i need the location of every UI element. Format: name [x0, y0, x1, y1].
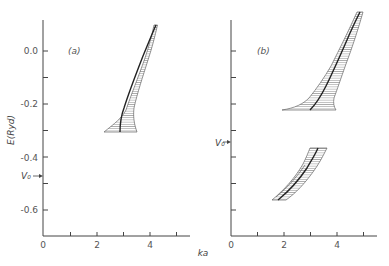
- x-tick-label-2-a: 2: [94, 240, 100, 250]
- panel-b: 0 2 4 ka V₀ (b): [198, 12, 377, 258]
- x-ticks-a: [71, 232, 177, 236]
- band-structure-figure: 0.0 -0.2 -0.4 -0.6 0 2 4 E(Ryd) V₀ (a): [0, 0, 389, 266]
- y-ticks-a: [43, 51, 48, 210]
- x-tick-label-4-b: 4: [334, 240, 340, 250]
- y-tick-label-m02: -0.2: [20, 99, 38, 109]
- band-b-upper-shaded: [282, 12, 363, 110]
- arrow-icon: [227, 140, 231, 144]
- y-tick-label-m06: -0.6: [20, 205, 38, 215]
- x-tick-label-0-b: 0: [228, 240, 234, 250]
- v0-label-a: V₀: [21, 171, 31, 181]
- x-axis-title: ka: [198, 248, 209, 258]
- x-tick-label-2-b: 2: [281, 240, 287, 250]
- x-tick-label-0-a: 0: [40, 240, 46, 250]
- y-tick-label-m04: -0.4: [20, 153, 38, 163]
- arrow-icon: [39, 174, 43, 178]
- y-tick-label-0: 0.0: [24, 46, 39, 56]
- y-ticks-b: [231, 51, 236, 210]
- y-axis-title: E(Ryd): [6, 115, 16, 145]
- x-tick-label-4-a: 4: [147, 240, 153, 250]
- x-ticks-b: [258, 232, 364, 236]
- panel-a: 0.0 -0.2 -0.4 -0.6 0 2 4 E(Ryd) V₀ (a): [6, 20, 190, 250]
- band-b-lower-shaded: [272, 148, 327, 200]
- panel-label-b: (b): [257, 46, 270, 56]
- panel-label-a: (a): [68, 46, 81, 56]
- v0-label-b: V₀: [215, 138, 225, 148]
